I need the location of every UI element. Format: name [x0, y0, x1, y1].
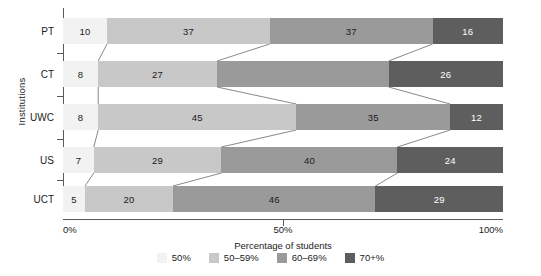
x-axis-tick-label: 100%	[479, 224, 503, 235]
bar-row: US7294024	[63, 147, 503, 173]
segment-value-label: 20	[124, 194, 135, 205]
legend-item[interactable]: 50%	[157, 252, 191, 263]
segment-value-label: 37	[346, 26, 357, 37]
bar-segment: 35	[296, 104, 450, 130]
bar-segment: 46	[173, 186, 375, 212]
bar-segment: 24	[397, 147, 503, 173]
legend-item[interactable]: 70+%	[345, 252, 385, 263]
category-label-ct: CT	[41, 69, 54, 80]
x-axis-title: Percentage of students	[63, 240, 503, 251]
bar-segment: 16	[433, 18, 503, 44]
bar-segment: 27	[98, 61, 217, 87]
chart-legend: 50%50–59%60–69%70+%	[0, 252, 541, 263]
segment-value-label: 29	[152, 155, 163, 166]
segment-value-label: 16	[462, 26, 473, 37]
y-axis-tick	[57, 139, 63, 140]
legend-label: 50–59%	[224, 252, 259, 263]
bar-segment: 26	[389, 61, 503, 87]
segment-value-label: 24	[445, 155, 456, 166]
bar-row: PT10373716	[63, 18, 503, 44]
segment-value-label: 10	[80, 26, 91, 37]
y-axis-title: Institutions	[16, 57, 27, 147]
bar-segment: 29	[94, 147, 222, 173]
category-label-pt: PT	[41, 26, 54, 37]
segment-value-label: 26	[440, 69, 451, 80]
segment-value-label: 7	[76, 155, 81, 166]
stacked-bar-chart: Institutions PT10373716CT82726UWC8453512…	[0, 0, 541, 276]
y-axis-tick	[57, 53, 63, 54]
bar-segment: 37	[270, 18, 433, 44]
bar-segment: 5	[63, 186, 85, 212]
bar-segment	[217, 61, 389, 87]
legend-label: 50%	[172, 252, 191, 263]
bar-segment: 40	[221, 147, 397, 173]
legend-label: 60–69%	[292, 252, 327, 263]
legend-swatch-icon	[345, 253, 355, 263]
bar-row: UWC8453512	[63, 104, 503, 130]
legend-swatch-icon	[157, 253, 167, 263]
y-axis-tick	[57, 180, 63, 181]
segment-value-label: 35	[368, 112, 379, 123]
bar-row: CT82726	[63, 61, 503, 87]
legend-swatch-icon	[209, 253, 219, 263]
category-label-uct: UCT	[33, 194, 54, 205]
segment-value-label: 5	[71, 194, 76, 205]
segment-value-label: 29	[434, 194, 445, 205]
category-label-uwc: UWC	[30, 112, 54, 123]
legend-label: 70+%	[360, 252, 385, 263]
legend-item[interactable]: 60–69%	[277, 252, 327, 263]
segment-value-label: 37	[183, 26, 194, 37]
segment-value-label: 8	[78, 112, 83, 123]
bar-row: UCT5204629	[63, 186, 503, 212]
y-axis-tick	[57, 96, 63, 97]
segment-value-label: 40	[304, 155, 315, 166]
x-axis-tick-label: 50%	[273, 224, 292, 235]
segment-value-label: 8	[78, 69, 83, 80]
bar-segment: 45	[98, 104, 296, 130]
bar-segment: 8	[63, 104, 98, 130]
bar-segment: 12	[450, 104, 503, 130]
bar-segment: 10	[63, 18, 107, 44]
bar-segment: 37	[107, 18, 270, 44]
plot-area: PT10373716CT82726UWC8453512US7294024UCT5…	[63, 8, 503, 212]
bar-segment: 7	[63, 147, 94, 173]
segment-value-label: 12	[471, 112, 482, 123]
legend-swatch-icon	[277, 253, 287, 263]
legend-item[interactable]: 50–59%	[209, 252, 259, 263]
segment-value-label: 46	[269, 194, 280, 205]
x-axis-tick-label: 0%	[63, 224, 77, 235]
segment-value-label: 27	[152, 69, 163, 80]
category-label-us: US	[40, 155, 54, 166]
bar-segment: 20	[85, 186, 173, 212]
segment-value-label: 45	[192, 112, 203, 123]
bar-segment: 29	[375, 186, 503, 212]
bar-segment: 8	[63, 61, 98, 87]
